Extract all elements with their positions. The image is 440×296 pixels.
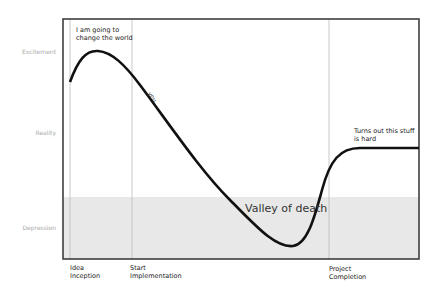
y-label-depression: Depression bbox=[0, 224, 56, 231]
y-label-reality: Reality bbox=[0, 129, 56, 136]
x-label-idea: Idea Inception bbox=[70, 264, 100, 280]
x-label-completion: Project Completion bbox=[329, 265, 366, 281]
x-label-start: Start Implementation bbox=[130, 264, 182, 280]
annotation-peak: I am going to change the world bbox=[76, 26, 133, 42]
y-label-excitement: Excitement bbox=[0, 48, 56, 55]
depression-shade bbox=[63, 197, 419, 259]
annotation-plateau: Turns out this stuff is hard bbox=[354, 127, 414, 143]
chart-canvas bbox=[0, 0, 440, 296]
annotation-valley: Valley of death bbox=[245, 202, 327, 215]
